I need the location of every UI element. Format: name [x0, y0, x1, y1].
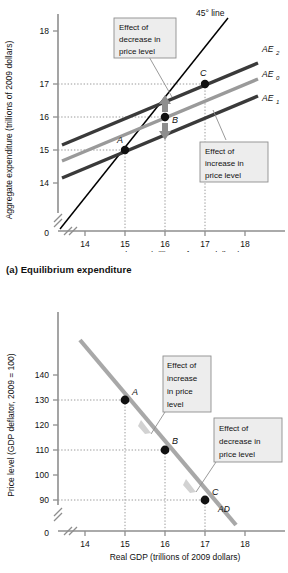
panel-a-45-line-label: 45° line — [196, 8, 225, 18]
panel-b-callout-increase-line3: in price — [167, 387, 193, 396]
panel-b-point-a — [121, 396, 130, 405]
panel-b-y-axis-title: Price level (GDP deflator, 2009 = 100) — [6, 353, 16, 496]
panel-a-callout-decrease-line1: Effect of — [119, 23, 149, 32]
panel-b-point-c-label: C — [212, 487, 219, 497]
panel-a-y-axis-title: Aggregate expenditure (trillions of 2009… — [4, 41, 14, 220]
panel-b-callout-increase-line4: level — [167, 400, 184, 409]
panel-a-callout-increase-leader — [213, 110, 226, 140]
chart-a-svg: Aggregate expenditure (trillions of 2009… — [0, 0, 288, 252]
panel-a-point-c-label: C — [200, 68, 207, 78]
panel-a-xtick-17: 17 — [200, 239, 210, 249]
panel-a-origin-label: 0 — [44, 228, 49, 238]
panel-b-xtick-14: 14 — [80, 539, 90, 549]
panel-b-movement-arrows — [138, 420, 196, 493]
panel-a-ytick-17: 17 — [40, 79, 50, 89]
panel-a-point-c — [201, 80, 209, 88]
panel-a-point-b-label: B — [172, 115, 178, 125]
panel-a-ytick-15: 15 — [40, 145, 50, 155]
panel-a-callout-increase-line1: Effect of — [205, 147, 235, 156]
panel-a-callout-decrease: Effect of decrease in price level — [114, 18, 176, 58]
panel-b-callout-decrease-line3: price level — [219, 450, 255, 459]
panel-a-gridlines — [58, 84, 205, 231]
panel-b-x-ticks: 14 15 16 17 18 — [80, 531, 250, 549]
panel-a-xtick-14: 14 — [80, 239, 90, 249]
panel-aggregate-demand: Price level (GDP deflator, 2009 = 100) 9… — [0, 290, 288, 573]
panel-a-label-ae1-sub: 1 — [276, 99, 279, 105]
panel-a-label-ae1: AE — [261, 93, 274, 103]
panel-a-x-axis-title: Real GDP (trillions of 2009 dollars) — [110, 250, 241, 252]
panel-b-line-ad — [80, 340, 236, 525]
panel-b-ytick-140: 140 — [35, 370, 49, 380]
panel-b-ytick-90: 90 — [40, 495, 50, 505]
panel-b-xtick-17: 17 — [200, 539, 210, 549]
panel-b-point-a-label: A — [131, 387, 138, 397]
panel-b-xtick-18: 18 — [240, 539, 250, 549]
panel-a-y-ticks: 14 15 16 17 18 — [40, 26, 58, 188]
panel-b-callout-decrease-line2: decrease in — [219, 437, 260, 446]
panel-b-point-c — [201, 496, 210, 505]
panel-a-label-ae0: AE — [261, 69, 274, 79]
panel-a-callout-increase: Effect of increase in price level — [200, 142, 268, 182]
panel-b-ytick-100: 100 — [35, 470, 49, 480]
panel-b-callout-decrease: Effect of decrease in price level — [214, 418, 282, 462]
panel-a-label-ae0-sub: 0 — [276, 75, 280, 81]
panel-a-callout-decrease-line2: decrease in — [119, 35, 160, 44]
panel-b-callout-increase-line1: Effect of — [167, 361, 197, 370]
panel-b-ytick-130: 130 — [35, 395, 49, 405]
panel-a-callout-decrease-leader — [148, 55, 172, 97]
panel-a-callout-decrease-line3: price level — [119, 47, 155, 56]
panel-b-xtick-15: 15 — [120, 539, 130, 549]
panel-a-ytick-16: 16 — [40, 112, 50, 122]
panel-a-point-a-label: A — [116, 135, 123, 145]
chart-b-svg: Price level (GDP deflator, 2009 = 100) 9… — [0, 290, 288, 573]
panel-a-x-ticks: 14 15 16 17 18 — [80, 231, 250, 249]
panel-a-point-a — [121, 146, 129, 154]
panel-b-point-b-label: B — [172, 436, 178, 446]
panel-a-label-ae2: AE — [261, 44, 274, 54]
panel-b-callout-decrease-line1: Effect of — [219, 424, 249, 433]
panel-a-caption: (a) Equilibrium expenditure — [6, 264, 132, 275]
panel-b-origin-label: 0 — [44, 528, 49, 538]
panel-a-ytick-14: 14 — [40, 178, 50, 188]
panel-b-gridlines — [58, 400, 205, 531]
panel-a-xtick-18: 18 — [240, 239, 250, 249]
panel-equilibrium-expenditure: Aggregate expenditure (trillions of 2009… — [0, 0, 288, 252]
panel-a-label-ae2-sub: 2 — [275, 50, 280, 56]
panel-b-callout-increase-line2: increase — [167, 374, 198, 383]
panel-a-callout-increase-line3: price level — [205, 171, 241, 180]
panel-b-x-axis-title: Real GDP (trillions of 2009 dollars) — [110, 552, 241, 562]
panel-b-y-ticks: 90 100 110 120 130 140 — [35, 370, 58, 505]
panel-a-point-b — [161, 113, 169, 121]
panel-b-ytick-110: 110 — [35, 445, 49, 455]
panel-a-xtick-15: 15 — [120, 239, 130, 249]
panel-b-xtick-16: 16 — [160, 539, 170, 549]
panel-a-callout-increase-line2: increase in — [205, 159, 244, 168]
panel-b-callout-increase: Effect of increase in price level — [163, 356, 211, 412]
panel-a-axis-break — [54, 214, 77, 235]
panel-b-point-b — [161, 446, 170, 455]
panel-b-label-ad: AD — [217, 504, 230, 514]
panel-a-ytick-18: 18 — [40, 26, 50, 36]
panel-b-ytick-120: 120 — [35, 420, 49, 430]
panel-a-xtick-16: 16 — [160, 239, 170, 249]
